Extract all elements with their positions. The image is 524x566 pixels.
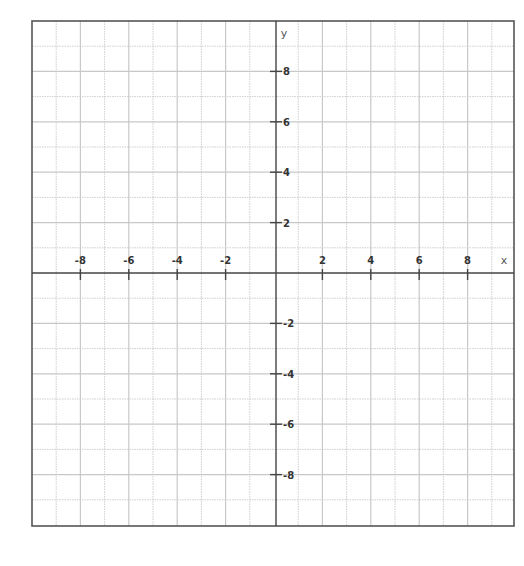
x-axis-ticks: -8-6-4-22468	[75, 255, 471, 280]
x-tick-label: -8	[75, 255, 86, 266]
x-tick-label: -2	[220, 255, 231, 266]
y-tick-label: -8	[283, 470, 294, 481]
y-tick-label: -6	[283, 419, 294, 430]
x-tick-label: -4	[172, 255, 183, 266]
x-tick-label: 2	[319, 255, 326, 266]
y-tick-label: -4	[283, 369, 294, 380]
y-axis-label: y	[281, 27, 288, 40]
y-tick-label: -2	[283, 318, 294, 329]
y-tick-label: 8	[283, 66, 290, 77]
y-tick-label: 6	[283, 117, 290, 128]
x-tick-label: -6	[123, 255, 134, 266]
x-tick-label: 6	[416, 255, 423, 266]
y-tick-label: 4	[283, 167, 290, 178]
x-tick-label: 8	[464, 255, 471, 266]
x-axis-label: x	[501, 254, 508, 267]
coordinate-plane: -8-6-4-22468 8642-2-4-6-8 x y	[0, 0, 524, 566]
y-tick-label: 2	[283, 218, 290, 229]
x-tick-label: 4	[367, 255, 374, 266]
